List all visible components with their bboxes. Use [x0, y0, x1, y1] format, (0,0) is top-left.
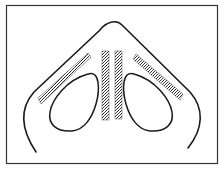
center-right-vertical-band: [115, 51, 122, 119]
diagram-svg: [0, 0, 221, 169]
diagram-canvas: [0, 0, 221, 169]
center-left-vertical-band: [102, 51, 109, 120]
frame-border: [7, 6, 218, 164]
left-diagonal-band: [38, 53, 91, 104]
